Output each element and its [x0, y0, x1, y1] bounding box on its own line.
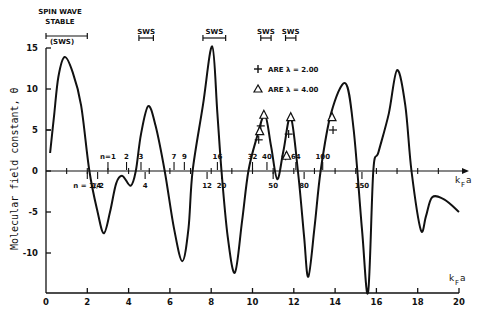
y-tick-label: -10 — [23, 248, 38, 258]
x-tick-label: 0 — [43, 297, 49, 307]
x-tick-label: 14 — [329, 297, 341, 307]
legend-triangle-icon — [254, 85, 262, 92]
sws-regions: SWSSWSSWSSWS — [46, 28, 300, 41]
n-marker-label: 16 — [213, 153, 223, 161]
n-marker-label: n=1 — [100, 153, 116, 161]
n-marker-label: 3 — [139, 153, 144, 161]
x-tick-label: 6 — [167, 297, 173, 307]
n-marker-label: 4 — [143, 182, 148, 190]
n-marker-label: 64 — [291, 153, 301, 161]
x-axis-label-lower: k F a — [449, 273, 466, 287]
y-tick-label: 10 — [26, 84, 38, 94]
n-marker-label: 20 — [217, 182, 227, 190]
y-tick-label: 5 — [32, 125, 38, 135]
legend-lambda-4: ARE λ = 4.00 — [268, 86, 319, 94]
xlabel-sub-2: F — [455, 279, 459, 287]
xlabel-sub: F — [461, 181, 465, 189]
x-tick-label: 8 — [208, 297, 214, 307]
x-tick-label: 4 — [126, 297, 132, 307]
y-axis-label: Molecular field constant, θ — [9, 87, 20, 250]
plus-marker-icon — [329, 126, 337, 134]
x-tick-label: 12 — [288, 297, 300, 307]
y-tick-label: -5 — [29, 207, 39, 217]
n-marker-label: 1/2 — [91, 182, 103, 190]
sws-main-label-2: STABLE — [45, 18, 74, 26]
legend: ARE λ = 2.00 ARE λ = 4.00 — [254, 65, 319, 94]
x-tick-label: 18 — [412, 297, 424, 307]
chart-figure: 151050-5-1002468101214161820 n=123791632… — [0, 0, 482, 318]
sws-label: SWS — [282, 28, 300, 36]
x-tick-label: 10 — [247, 297, 259, 307]
n-marker-label: 150 — [355, 182, 370, 190]
zero-axis-arrow-icon — [462, 168, 469, 174]
x-tick-label: 20 — [453, 297, 465, 307]
tick-labels: 151050-5-1002468101214161820 — [23, 43, 465, 307]
x-axis-label-upper: k F a — [455, 175, 472, 189]
n-marker-label: 12 — [202, 182, 212, 190]
legend-plus-icon — [254, 65, 262, 73]
legend-lambda-2: ARE λ = 2.00 — [268, 66, 319, 74]
n-marker-label: 7 — [172, 153, 177, 161]
x-tick-label: 16 — [370, 297, 382, 307]
n-marker-label: 100 — [315, 153, 330, 161]
n-marker-label: 2 — [124, 153, 129, 161]
y-tick-label: 0 — [32, 166, 38, 176]
sws-label: SWS — [205, 28, 223, 36]
sws-label: SWS — [257, 28, 275, 36]
x-tick-label: 2 — [84, 297, 90, 307]
sws-main-label-3: (SWS) — [50, 38, 74, 46]
triangle-marker-icon — [260, 110, 268, 118]
xlabel-a-2: a — [460, 273, 466, 283]
n-marker-label: 40 — [262, 153, 272, 161]
triangle-marker-icon — [287, 113, 295, 121]
sws-label: SWS — [137, 28, 155, 36]
sws-main-label-1: SPIN WAVE — [38, 8, 82, 16]
theta-curve — [50, 46, 459, 293]
triangle-marker-icon — [256, 127, 264, 135]
y-tick-label: 15 — [26, 43, 38, 53]
n-marker-label: 80 — [299, 182, 309, 190]
n-marker-label: 9 — [182, 153, 187, 161]
xlabel-a: a — [466, 175, 472, 185]
n-marker-label: 50 — [268, 182, 278, 190]
n-marker-label: 32 — [248, 153, 258, 161]
